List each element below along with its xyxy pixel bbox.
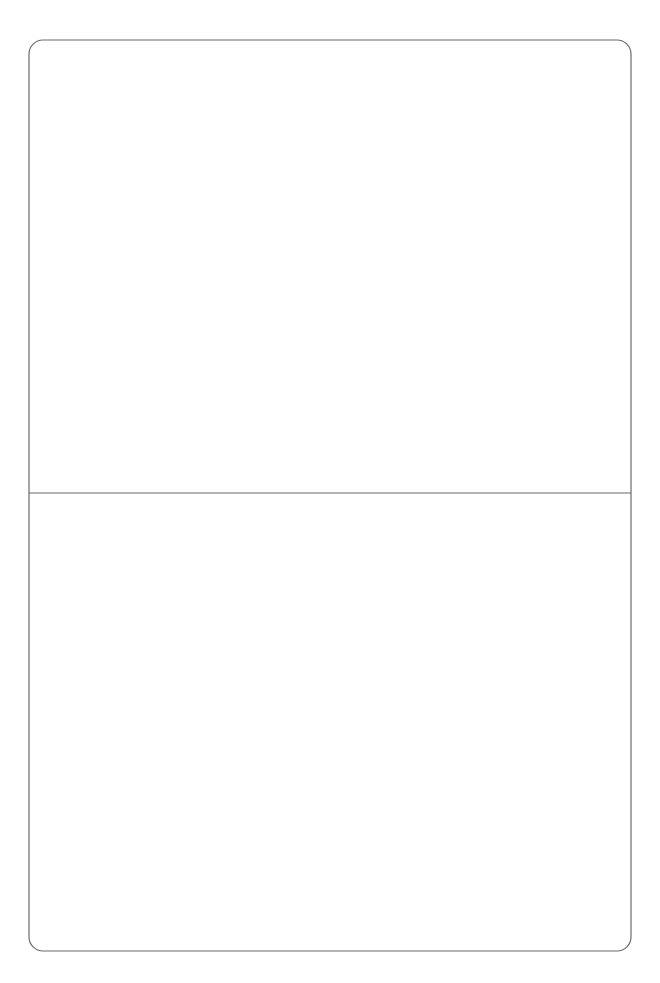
- puzzle-illustration: [0, 0, 660, 983]
- panel-frame: [29, 40, 631, 951]
